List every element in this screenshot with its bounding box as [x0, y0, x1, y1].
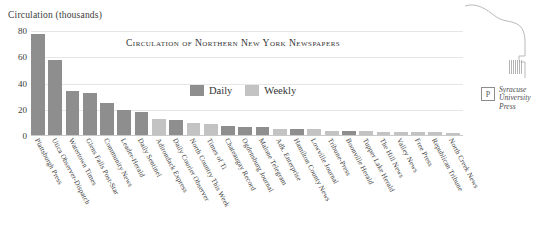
legend-swatch-weekly-icon [245, 85, 259, 96]
figure-page: Circulation (thousands) 020406080 Platts… [0, 0, 535, 233]
y-tick-label: 80 [18, 27, 27, 36]
bar-daily [117, 110, 131, 136]
bar-daily [83, 93, 97, 136]
bar-weekly [152, 119, 166, 136]
legend-swatch-daily-icon [190, 85, 204, 96]
map-outline-decoration [465, 0, 535, 85]
bar-daily [135, 112, 149, 136]
chart-legend: Daily Weekly [190, 85, 296, 96]
legend-label-weekly: Weekly [264, 85, 296, 96]
axis-baseline [31, 135, 463, 136]
bar-daily [31, 34, 45, 136]
bar-daily [48, 60, 62, 136]
y-tick-label: 60 [18, 53, 27, 62]
x-axis-category-labels: Plattsburgh PressUtica Observer-Dispatch… [31, 137, 463, 233]
publisher-imprint: P Syracuse University Press [481, 86, 531, 111]
bar-daily [169, 120, 183, 136]
chart-title: Circulation of Northern New York Newspap… [126, 37, 340, 48]
legend-item-weekly: Weekly [245, 85, 296, 96]
bar-daily [100, 103, 114, 136]
barcode-decoration [509, 60, 522, 74]
y-tick-label: 20 [18, 105, 27, 114]
legend-item-daily: Daily [190, 85, 232, 96]
publisher-logo-icon: P [481, 87, 495, 101]
bar-daily [66, 91, 80, 136]
y-tick-label: 0 [23, 132, 28, 141]
publisher-name: Syracuse University Press [499, 86, 531, 111]
y-tick-label: 40 [18, 79, 27, 88]
y-axis-ticks: 020406080 [0, 31, 31, 136]
publisher-line-3: Press [499, 102, 516, 111]
legend-label-daily: Daily [209, 85, 232, 96]
y-axis-title: Circulation (thousands) [8, 10, 102, 20]
